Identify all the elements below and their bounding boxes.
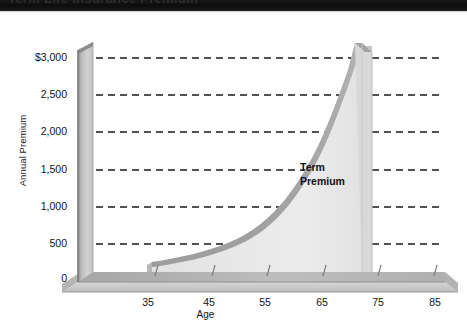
- y-tick-label: 2,000: [0, 125, 67, 137]
- y-tick-label: 1,000: [0, 200, 67, 212]
- gridlines: [96, 58, 440, 244]
- series-annotation-line1: Term: [300, 160, 345, 174]
- x-tick-label: 55: [245, 296, 285, 308]
- y-axis-title: Annual Premium: [17, 96, 28, 206]
- x-axis-title-text: Age: [197, 309, 215, 320]
- floor-plate: [62, 272, 458, 292]
- y-tick-label: 1,500: [0, 163, 67, 175]
- series-annotation: Term Premium: [300, 160, 345, 188]
- area-front-face: [152, 43, 372, 272]
- chart-canvas: [0, 0, 467, 334]
- chart-screenshot: Term Life Insurance Premium: [0, 0, 467, 334]
- y-tick-label: 2,500: [0, 88, 67, 100]
- x-axis-title: Age: [0, 309, 467, 320]
- area-series-term-premium: [147, 43, 372, 272]
- y-tick-label: 0: [0, 272, 67, 284]
- area-start-cap: [147, 262, 152, 272]
- y-tick-label: $3,000: [0, 51, 67, 63]
- x-tick-label: 35: [128, 296, 168, 308]
- series-annotation-line2: Premium: [300, 174, 345, 188]
- y-tick-label: 500: [0, 237, 67, 249]
- x-tick-label: 75: [358, 296, 398, 308]
- x-tick-label: 45: [189, 296, 229, 308]
- x-tick-label: 65: [302, 296, 342, 308]
- y-axis-bar: [78, 42, 93, 282]
- x-tick-label: 85: [415, 296, 455, 308]
